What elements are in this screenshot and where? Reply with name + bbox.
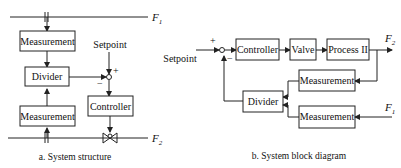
- measurement-label-bottom: Measurement: [20, 111, 75, 122]
- measurement-label-bottom: Measurement: [300, 111, 355, 122]
- minus-sign: −: [227, 53, 233, 64]
- summing-junction: [220, 48, 225, 53]
- summing-junction: [107, 75, 112, 80]
- valve-label: Valve: [292, 44, 315, 55]
- flow-label-f1: F1: [151, 11, 162, 26]
- caption-a: a. System structure: [39, 152, 112, 162]
- plus-sign: +: [113, 65, 119, 76]
- connector: [283, 105, 299, 117]
- divider-label: Divider: [32, 71, 63, 82]
- setpoint-label: Setpoint: [163, 53, 197, 64]
- controller-label: Controller: [90, 101, 132, 112]
- system-structure-diagram: F1 Measurement Divider + − Setpoint Cont…: [8, 11, 163, 162]
- controller-label: Controller: [237, 44, 279, 55]
- divider-label: Divider: [248, 96, 279, 107]
- flow-label-f2: F2: [151, 132, 163, 147]
- minus-sign: −: [97, 78, 103, 89]
- caption-b: b. System block diagram: [252, 151, 347, 161]
- system-block-diagram: Setpoint + − Controller Valve Process II…: [163, 32, 395, 161]
- process-label: Process II: [328, 44, 368, 55]
- plus-sign: +: [210, 35, 216, 46]
- measurement-label-top: Measurement: [300, 75, 355, 86]
- input-label-f1: F1: [384, 101, 395, 116]
- measurement-label-top: Measurement: [20, 36, 75, 47]
- output-label-f2: F2: [384, 32, 396, 47]
- connector: [283, 81, 299, 97]
- setpoint-label: Setpoint: [93, 39, 127, 50]
- diagram-canvas: F1 Measurement Divider + − Setpoint Cont…: [0, 0, 401, 168]
